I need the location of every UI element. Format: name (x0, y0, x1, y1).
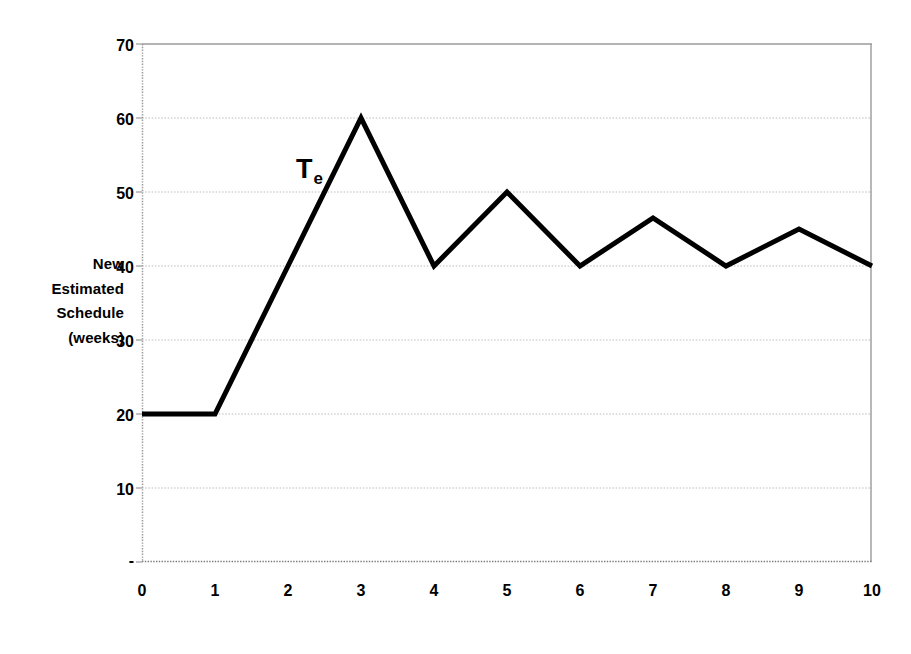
line-chart: New Estimated Schedule (weeks) - 10 20 3… (0, 0, 911, 654)
series-label-te-main: T (296, 154, 313, 184)
plot-border (142, 44, 872, 562)
plot-area (0, 0, 911, 654)
gridlines-horizontal (142, 118, 872, 488)
axis-tick-marks (136, 44, 142, 562)
series-label-te-subscript: e (313, 169, 322, 188)
series-label-te: Te (296, 156, 322, 186)
axis-lines (142, 44, 872, 562)
